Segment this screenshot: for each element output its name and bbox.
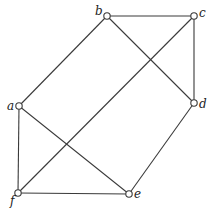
edge-a-b <box>19 16 107 106</box>
graph-diagram: abcdef <box>0 0 217 213</box>
node-label-a: a <box>7 99 14 113</box>
node-a <box>16 103 22 109</box>
node-label-e: e <box>134 187 141 201</box>
node-d <box>191 100 197 106</box>
edge-c-f <box>18 16 194 193</box>
node-f <box>15 190 21 196</box>
node-c <box>191 13 197 19</box>
node-label-b: b <box>95 4 103 18</box>
node-label-c: c <box>199 6 206 20</box>
edge-f-e <box>18 193 129 194</box>
node-label-f: f <box>9 194 17 208</box>
node-b <box>104 13 110 19</box>
labels: abcdef <box>7 4 207 208</box>
edges <box>18 16 194 194</box>
edge-d-e <box>129 103 194 194</box>
edge-a-e <box>19 106 129 194</box>
node-e <box>126 191 132 197</box>
node-label-d: d <box>199 97 207 111</box>
edge-a-f <box>18 106 19 193</box>
